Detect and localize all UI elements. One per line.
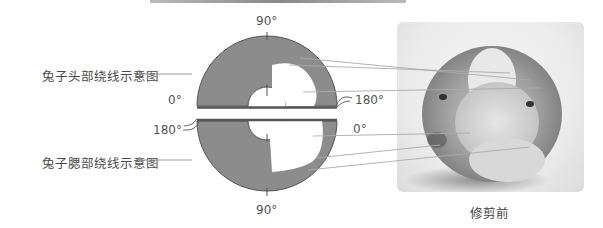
belly-half-ring xyxy=(183,119,337,196)
head-half-ring xyxy=(197,32,352,108)
label-leader-lines xyxy=(138,72,192,161)
winding-diagram xyxy=(0,0,603,228)
